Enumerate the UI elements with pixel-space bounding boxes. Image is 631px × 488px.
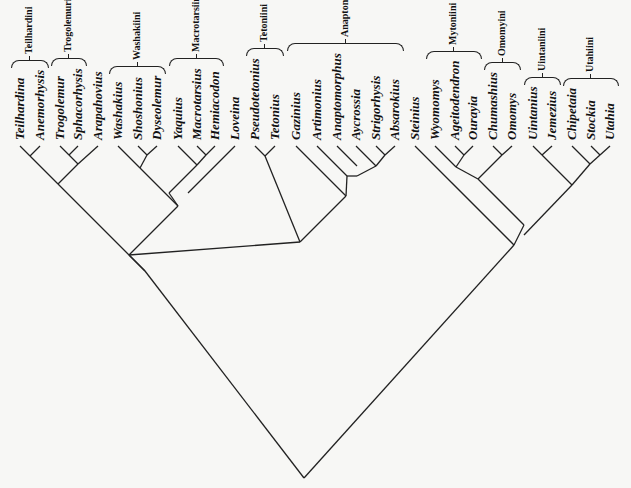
branch-line	[188, 146, 235, 193]
taxon-label: Hemiacodon	[208, 71, 221, 140]
branch-line	[255, 146, 265, 156]
branch-line	[69, 146, 78, 155]
taxon-label: Aycrossia	[349, 89, 362, 140]
taxon-label: Uintanius	[526, 87, 539, 140]
branch-line	[58, 164, 78, 184]
taxon-label: Wyomomys	[428, 79, 441, 140]
taxon-label: Pseudotetonius	[248, 58, 261, 140]
tribe-label: Trogolemurini	[63, 0, 73, 52]
taxon-label: Steinius	[408, 97, 421, 140]
taxon-label: Shoshonius	[131, 77, 144, 140]
branch-line	[591, 146, 600, 155]
branch-line	[455, 146, 464, 155]
tribe-bracket	[287, 43, 404, 51]
taxon-label: Omomys	[505, 93, 518, 140]
branch-line	[435, 146, 456, 167]
taxon-label: Sphacorhysis	[71, 68, 84, 140]
tribe-label: Omomyini	[497, 11, 507, 57]
branch-line	[514, 225, 524, 245]
tribe-label: Uintaniini	[537, 27, 547, 70]
taxon-label: Arapahovius	[91, 71, 104, 140]
tribe-bracket	[563, 78, 619, 86]
branch-line	[304, 245, 514, 478]
bracket-tick	[453, 47, 454, 52]
branch-line	[20, 146, 30, 156]
tribe-bracket	[51, 58, 87, 66]
branch-line	[129, 242, 300, 255]
branch-line	[265, 156, 300, 242]
taxon-label: Teilhardina	[13, 78, 26, 140]
branch-line	[376, 155, 385, 166]
branch-line	[542, 155, 572, 185]
bracket-tick	[590, 74, 591, 79]
branch-line	[600, 146, 610, 155]
branch-line	[30, 146, 40, 156]
taxon-label: Anaptomorphus	[330, 53, 343, 140]
taxon-label: Macrotarsius	[190, 68, 203, 140]
branch-line	[60, 146, 69, 155]
tribe-label: Mytoniini	[448, 2, 458, 44]
branch-line	[138, 146, 147, 155]
taxon-label: Yaquius	[171, 97, 184, 140]
branch-line	[197, 146, 206, 155]
branch-line	[69, 155, 78, 164]
branch-line	[356, 146, 376, 166]
tribe-bracket	[109, 66, 166, 74]
taxon-label: Strigorhysis	[369, 76, 382, 140]
tribe-bracket	[246, 48, 284, 56]
branch-line	[524, 185, 572, 235]
taxon-label: Chumashius	[486, 72, 499, 140]
taxon-label: Chipetaia	[565, 88, 578, 140]
tribe-bracket	[524, 77, 561, 85]
tribe-bracket	[426, 51, 482, 59]
branch-line	[385, 146, 395, 155]
branch-line	[493, 146, 502, 155]
branch-line	[145, 271, 304, 478]
bracket-tick	[264, 44, 265, 49]
branch-line	[118, 146, 140, 168]
taxon-label: Dyseolemur	[150, 76, 163, 140]
branch-line	[464, 146, 473, 155]
branch-line	[572, 164, 590, 185]
bracket-tick	[345, 39, 346, 44]
bracket-tick	[502, 58, 503, 63]
tribe-label: Anaptomorphini	[340, 0, 350, 37]
tribe-label: Tetoniini	[259, 4, 269, 42]
bracket-tick	[137, 62, 138, 67]
branch-line	[533, 146, 542, 155]
branch-line	[140, 155, 147, 168]
tribe-label: Teilhardini	[24, 6, 34, 53]
branch-line	[590, 155, 600, 164]
branch-line	[147, 146, 157, 155]
bracket-tick	[542, 73, 543, 78]
branch-line	[197, 155, 206, 165]
taxon-label: Loveina	[228, 97, 241, 140]
tribe-label: Washakiini	[132, 11, 142, 59]
branch-line	[456, 155, 464, 167]
branch-line	[129, 206, 178, 255]
tribe-bracket	[169, 58, 224, 66]
bracket-tick	[29, 56, 30, 61]
taxon-label: Utahia	[603, 103, 616, 140]
taxon-label: Anemorhysis	[33, 70, 46, 140]
branch-line	[415, 146, 514, 245]
branch-line	[178, 146, 197, 165]
taxon-label: Ourayia	[466, 96, 479, 140]
branch-line	[376, 146, 385, 155]
taxon-label: Artimonius	[310, 79, 323, 140]
taxon-label: Absarokius	[388, 79, 401, 140]
branch-line	[456, 167, 478, 179]
taxon-label: Gazinius	[289, 92, 302, 140]
branch-line	[478, 179, 524, 225]
branch-line	[129, 255, 145, 271]
tribe-label: Macrotarsiini	[191, 0, 201, 52]
taxon-label: Tetonius	[268, 94, 281, 140]
tribe-label: Utahiini	[585, 37, 595, 72]
branch-line	[78, 146, 98, 164]
branch-line	[357, 166, 376, 176]
tribe-bracket	[11, 60, 49, 68]
branch-line	[296, 146, 346, 196]
branch-line	[169, 193, 178, 206]
branch-line	[502, 146, 512, 155]
branch-line	[572, 146, 590, 164]
